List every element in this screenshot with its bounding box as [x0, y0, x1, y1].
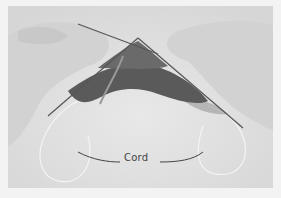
cord-label: Cord [124, 152, 148, 163]
image-frame: Cord [0, 0, 281, 198]
